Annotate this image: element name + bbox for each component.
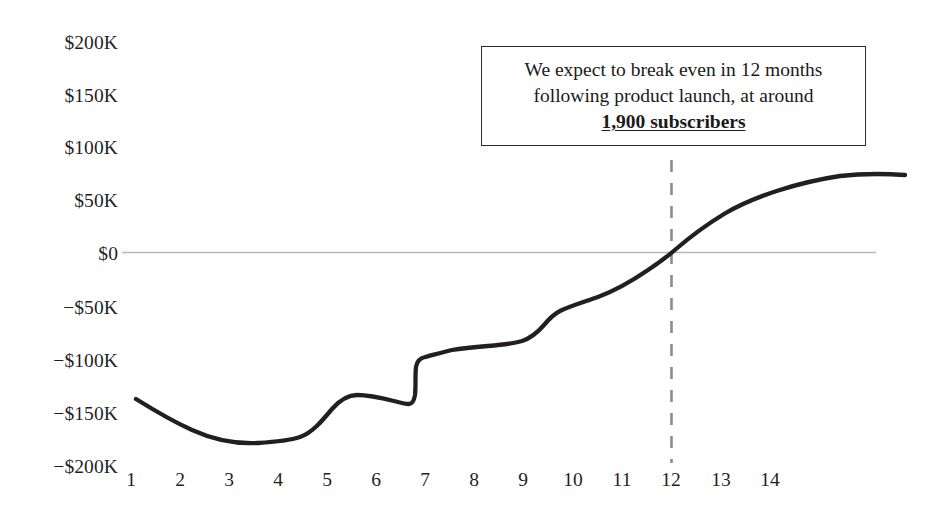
- x-tick-label: 1: [126, 470, 136, 490]
- annotation-line-2: following product launch, at around: [534, 83, 814, 109]
- x-tick-label: 2: [175, 470, 185, 490]
- x-tick-label: 3: [224, 470, 234, 490]
- x-tick-label: 14: [760, 470, 780, 490]
- breakeven-chart: $200K $150K $100K $50K $0 −$50K −$100K −…: [0, 0, 939, 516]
- x-tick-label: 12: [661, 470, 681, 490]
- x-tick-label: 8: [469, 470, 479, 490]
- annotation-line-3-emphasis: 1,900 subscribers: [601, 109, 745, 135]
- cashflow-curve: [136, 174, 905, 443]
- annotation-line-1: We expect to break even in 12 months: [525, 57, 823, 83]
- x-tick-label: 7: [420, 470, 430, 490]
- annotation-callout: We expect to break even in 12 months fol…: [481, 46, 866, 146]
- x-tick-label: 9: [518, 470, 528, 490]
- x-tick-label: 6: [371, 470, 381, 490]
- x-tick-label: 11: [613, 470, 632, 490]
- x-axis-labels: 1 2 3 4 5 6 7 8 9 10 11 12 13 14: [0, 470, 939, 500]
- x-tick-label: 10: [563, 470, 583, 490]
- x-tick-label: 13: [711, 470, 731, 490]
- x-tick-label: 5: [322, 470, 332, 490]
- x-tick-label: 4: [273, 470, 283, 490]
